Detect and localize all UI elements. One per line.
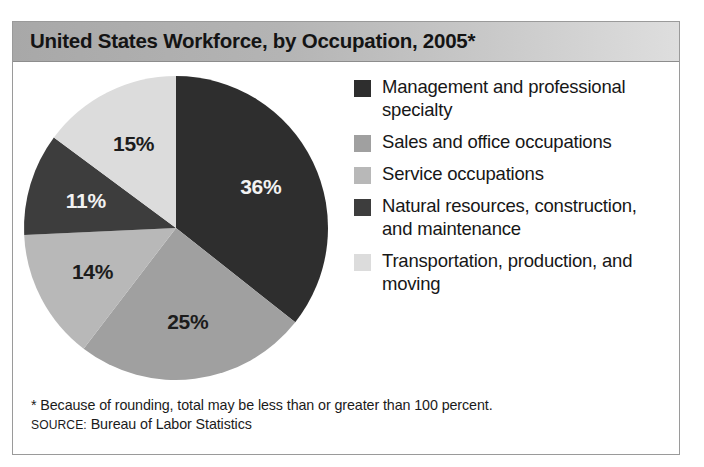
legend-item-label: Transportation, production, and moving <box>382 250 666 296</box>
legend-color-swatch <box>354 80 371 97</box>
pie-slice-label: 36% <box>240 175 282 198</box>
legend-color-swatch <box>354 254 371 271</box>
footnote: * Because of rounding, total may be less… <box>31 396 661 434</box>
pie-slice-label: 11% <box>66 189 107 212</box>
legend: Management and professional specialtySal… <box>354 76 666 305</box>
legend-item: Transportation, production, and moving <box>354 250 666 296</box>
pie-slice-label: 14% <box>72 260 114 283</box>
legend-color-swatch <box>354 167 371 184</box>
legend-color-swatch <box>354 135 371 152</box>
legend-color-swatch <box>354 199 371 216</box>
legend-item: Management and professional specialty <box>354 76 666 122</box>
pie-chart-svg: 36%25%14%11%15% <box>16 68 336 388</box>
legend-item-label: Natural resources, construction, and mai… <box>382 195 666 241</box>
figure-header-bar: United States Workforce, by Occupation, … <box>13 22 679 62</box>
footnote-source: SOURCE: Bureau of Labor Statistics <box>31 415 661 434</box>
footnote-source-label: SOURCE: <box>31 418 87 432</box>
figure-panel: United States Workforce, by Occupation, … <box>12 21 680 455</box>
legend-item-label: Service occupations <box>382 163 544 186</box>
legend-item: Service occupations <box>354 163 666 186</box>
legend-item-label: Sales and office occupations <box>382 131 612 154</box>
footnote-source-value: Bureau of Labor Statistics <box>87 416 252 432</box>
legend-item-label: Management and professional specialty <box>382 76 666 122</box>
figure-title: United States Workforce, by Occupation, … <box>30 29 475 53</box>
pie-slice-label: 15% <box>113 132 155 155</box>
pie-chart: 36%25%14%11%15% <box>16 68 336 388</box>
pie-slice-group <box>24 76 328 380</box>
footnote-asterisk-note: * Because of rounding, total may be less… <box>31 396 661 415</box>
legend-item: Sales and office occupations <box>354 131 666 154</box>
legend-item: Natural resources, construction, and mai… <box>354 195 666 241</box>
pie-slice-label: 25% <box>167 310 209 333</box>
